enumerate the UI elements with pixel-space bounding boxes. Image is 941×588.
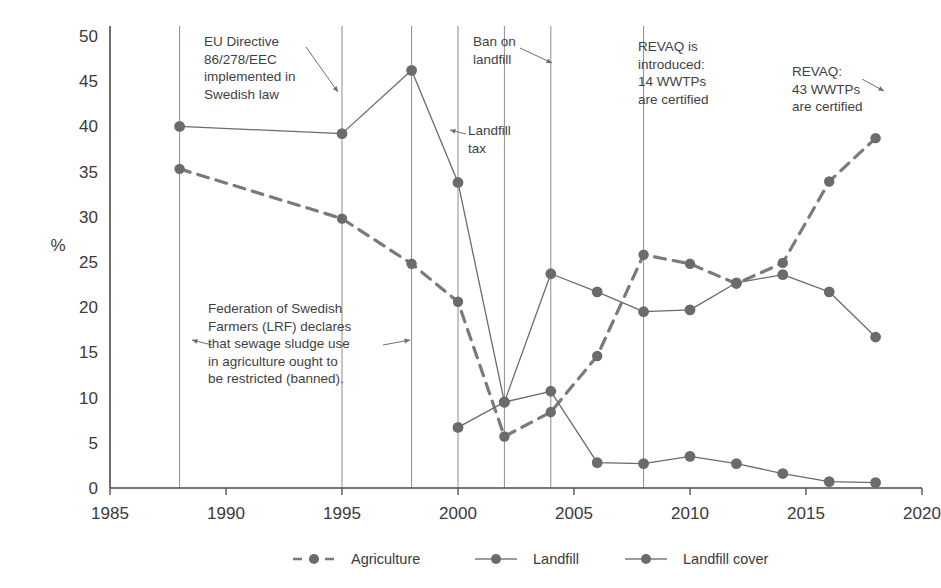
data-point (777, 468, 788, 479)
x-tick-label: 2010 (671, 504, 709, 523)
y-tick-label: 25 (79, 253, 98, 272)
data-point (638, 250, 648, 260)
data-point (545, 386, 556, 397)
legend-marker-1 (491, 554, 501, 564)
y-axis-label: % (50, 236, 65, 255)
y-tick-label: 45 (79, 72, 98, 91)
data-point (546, 407, 556, 417)
data-point (685, 451, 696, 462)
data-point (824, 476, 835, 487)
data-point (545, 268, 556, 279)
series-lines (180, 70, 876, 482)
series-line-2 (458, 391, 876, 482)
x-tick-label: 2020 (903, 504, 941, 523)
x-tick-label: 2000 (439, 504, 477, 523)
legend-marker-0 (309, 554, 319, 564)
y-tick-label: 35 (79, 163, 98, 182)
y-tick-label: 10 (79, 389, 98, 408)
annotation-landfill-tax: Landfill tax (468, 122, 511, 157)
data-point (685, 305, 696, 316)
x-tick-label: 1985 (91, 504, 129, 523)
x-tick-label: 2015 (787, 504, 825, 523)
data-point (731, 277, 742, 288)
data-point (174, 121, 185, 132)
data-point (406, 65, 417, 76)
y-tick-label: 20 (79, 298, 98, 317)
y-tick-label: 5 (89, 434, 98, 453)
y-tick-label: 40 (79, 117, 98, 136)
data-point (453, 177, 464, 188)
x-tick-label: 1990 (207, 504, 245, 523)
series-line-0 (180, 138, 876, 436)
legend-label-2: Landfill cover (683, 551, 769, 567)
data-point (870, 332, 881, 343)
y-tick-label: 0 (89, 479, 98, 498)
data-point (638, 306, 649, 317)
arrow-lrf-left-head (192, 339, 198, 344)
legend-label-0: Agriculture (351, 551, 420, 567)
legend-marker-2 (641, 554, 651, 564)
data-point (870, 477, 881, 488)
data-point (592, 286, 603, 297)
data-point (777, 269, 788, 280)
data-point (638, 458, 649, 469)
data-point (406, 259, 416, 269)
arrow-eu-directive (306, 47, 338, 92)
annotation-lrf-declaration: Federation of Swedish Farmers (LRF) decl… (208, 300, 351, 388)
legend-label-1: Landfill (533, 551, 579, 567)
y-tick-label: 50 (79, 27, 98, 46)
data-point (731, 458, 742, 469)
annotation-revaq-43: REVAQ: 43 WWTPs are certified (792, 63, 863, 116)
data-point (337, 213, 347, 223)
data-point (453, 422, 464, 433)
arrow-eu-directive-head (333, 86, 338, 92)
data-point (174, 164, 184, 174)
data-point (499, 431, 509, 441)
x-tick-label: 1995 (323, 504, 361, 523)
arrow-lrf-right-head (404, 339, 410, 344)
annotation-revaq-introduced: REVAQ is introduced: 14 WWTPs are certif… (638, 38, 709, 108)
data-point (592, 351, 602, 361)
data-point (824, 286, 835, 297)
x-tick-label: 2005 (555, 504, 593, 523)
data-point (824, 176, 834, 186)
chart-container: 05101520253035404550 1985199019952000200… (0, 0, 941, 588)
data-point (453, 297, 463, 307)
data-point (592, 457, 603, 468)
annotation-eu-directive: EU Directive 86/278/EEC implemented in S… (204, 33, 296, 103)
y-axis-ticks: 05101520253035404550 (79, 27, 98, 498)
data-point (337, 128, 348, 139)
arrow-landfill-tax-head (450, 129, 456, 134)
y-tick-label: 15 (79, 343, 98, 362)
data-point (778, 258, 788, 268)
annotation-ban-on-landfill: Ban on landfill (473, 33, 516, 68)
chart-legend: AgricultureLandfillLandfill cover (293, 551, 769, 567)
data-point (499, 397, 510, 408)
y-tick-label: 30 (79, 208, 98, 227)
data-point (685, 259, 695, 269)
x-axis-ticks: 19851990199520002005201020152020 (91, 488, 941, 523)
data-point (870, 133, 880, 143)
